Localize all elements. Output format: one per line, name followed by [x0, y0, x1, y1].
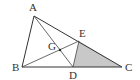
label-c: C: [125, 61, 132, 73]
point-g-dot: [59, 49, 61, 51]
geometry-figure: A B C D E G: [0, 0, 140, 80]
label-e: E: [79, 27, 86, 39]
label-g: G: [48, 40, 56, 52]
segment-ab: [22, 16, 34, 67]
label-d: D: [69, 69, 77, 80]
label-a: A: [29, 1, 37, 13]
label-b: B: [12, 61, 19, 73]
